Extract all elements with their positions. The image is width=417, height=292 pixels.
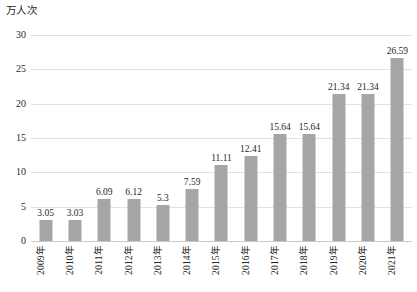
y-axis-tick-label: 15 <box>2 133 26 143</box>
x-axis-tick-label: 2019年 <box>329 245 339 275</box>
x-axis-tick-label: 2015年 <box>211 245 221 275</box>
bar[interactable] <box>362 94 375 241</box>
x-axis-tick-slot: 2011年 <box>90 243 119 291</box>
bar[interactable] <box>98 199 111 241</box>
bar-slot: 21.34 <box>324 35 353 241</box>
bar[interactable] <box>244 156 257 241</box>
bar-slot: 6.12 <box>119 35 148 241</box>
bar-slot: 12.41 <box>236 35 265 241</box>
bar-value-label: 3.05 <box>37 208 54 218</box>
x-axis-tick-label: 2011年 <box>94 245 104 275</box>
bar[interactable] <box>156 205 169 241</box>
x-axis-tick-slot: 2012年 <box>119 243 148 291</box>
y-axis-unit-label: 万人次 <box>6 4 37 17</box>
y-axis-tick-label: 0 <box>2 236 26 246</box>
x-axis-tick-label: 2014年 <box>182 245 192 275</box>
bar[interactable] <box>332 94 345 241</box>
x-axis-tick-slot: 2013年 <box>148 243 177 291</box>
bar-value-label: 6.12 <box>125 187 142 197</box>
bar[interactable] <box>39 220 52 241</box>
bar[interactable] <box>391 58 404 241</box>
bar-value-label: 7.59 <box>184 177 201 187</box>
bar-value-label: 15.64 <box>269 122 290 132</box>
bar-slot: 3.05 <box>31 35 60 241</box>
bar-slot: 6.09 <box>90 35 119 241</box>
x-axis-tick-label: 2012年 <box>124 245 134 275</box>
x-axis-tick-slot: 2010年 <box>60 243 89 291</box>
x-axis-tick-slot: 2018年 <box>295 243 324 291</box>
bar-value-label: 3.03 <box>67 208 84 218</box>
x-axis-tick-label: 2009年 <box>36 245 46 275</box>
bar[interactable] <box>186 189 199 241</box>
x-axis-tick-slot: 2017年 <box>265 243 294 291</box>
x-axis-tick-slot: 2021年 <box>383 243 412 291</box>
x-axis-tick-slot: 2016年 <box>236 243 265 291</box>
x-axis-tick-slot: 2014年 <box>178 243 207 291</box>
bar-slot: 15.64 <box>265 35 294 241</box>
bar[interactable] <box>303 134 316 241</box>
x-axis-tick-slot: 2020年 <box>353 243 382 291</box>
y-axis-tick-label: 20 <box>2 99 26 109</box>
bars-layer: 3.053.036.096.125.37.5911.1112.4115.6415… <box>31 35 412 241</box>
bar-slot: 21.34 <box>353 35 382 241</box>
x-axis-tick-slot: 2015年 <box>207 243 236 291</box>
bar-chart: 万人次 302520151050 3.053.036.096.125.37.59… <box>0 0 417 292</box>
bar-value-label: 15.64 <box>299 122 320 132</box>
bar-value-label: 11.11 <box>211 153 232 163</box>
bar-value-label: 12.41 <box>240 144 261 154</box>
gridline-0 <box>31 241 412 242</box>
x-axis-tick-label: 2020年 <box>358 245 368 275</box>
x-axis-tick-label: 2021年 <box>387 245 397 275</box>
bar-slot: 3.03 <box>60 35 89 241</box>
bar-value-label: 6.09 <box>96 187 113 197</box>
y-axis-tick-label: 30 <box>2 30 26 40</box>
x-axis-tick-label: 2010年 <box>65 245 75 275</box>
bar[interactable] <box>127 199 140 241</box>
y-axis-tick-labels: 302520151050 <box>0 35 26 241</box>
bar-value-label: 5.3 <box>157 193 169 203</box>
bar-value-label: 21.34 <box>357 82 378 92</box>
x-axis-tick-label: 2018年 <box>299 245 309 275</box>
y-axis-tick-label: 10 <box>2 167 26 177</box>
x-axis-tick-labels: 2009年2010年2011年2012年2013年2014年2015年2016年… <box>31 243 412 291</box>
bar-slot: 15.64 <box>295 35 324 241</box>
y-axis-tick-label: 25 <box>2 64 26 74</box>
x-axis-tick-slot: 2009年 <box>31 243 60 291</box>
x-axis-tick-slot: 2019年 <box>324 243 353 291</box>
bar[interactable] <box>68 220 81 241</box>
bar-slot: 26.59 <box>383 35 412 241</box>
x-axis-tick-label: 2013年 <box>153 245 163 275</box>
x-axis-tick-label: 2017年 <box>270 245 280 275</box>
bar-value-label: 21.34 <box>328 82 349 92</box>
bar-slot: 7.59 <box>178 35 207 241</box>
bar-value-label: 26.59 <box>387 46 408 56</box>
x-axis-tick-label: 2016年 <box>241 245 251 275</box>
bar[interactable] <box>215 165 228 241</box>
y-axis-tick-label: 5 <box>2 202 26 212</box>
bar[interactable] <box>274 134 287 241</box>
bar-slot: 11.11 <box>207 35 236 241</box>
bar-slot: 5.3 <box>148 35 177 241</box>
